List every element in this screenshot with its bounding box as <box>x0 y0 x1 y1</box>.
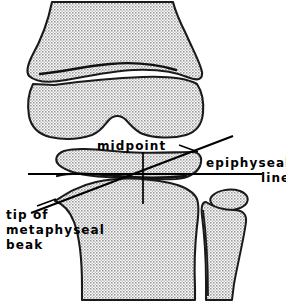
midpoint-leader-line <box>179 145 198 152</box>
label-beak-2: metaphyseal <box>6 223 105 238</box>
label-epiphyseal-line-2: line <box>206 171 286 186</box>
label-midpoint: midpoint <box>97 139 166 154</box>
label-metaphyseal-beak: tip of metaphyseal beak <box>6 208 105 253</box>
femoral-epiphysis-condyles <box>28 77 203 139</box>
label-epiphyseal-line-1: epiphyseal <box>206 156 286 170</box>
label-epiphyseal-line: epiphyseal line <box>206 156 286 186</box>
label-beak-3: beak <box>6 238 105 253</box>
knee-epiphyseal-line-figure: midpoint epiphyseal line tip of metaphys… <box>0 0 286 302</box>
label-beak-1: tip of <box>6 208 105 223</box>
